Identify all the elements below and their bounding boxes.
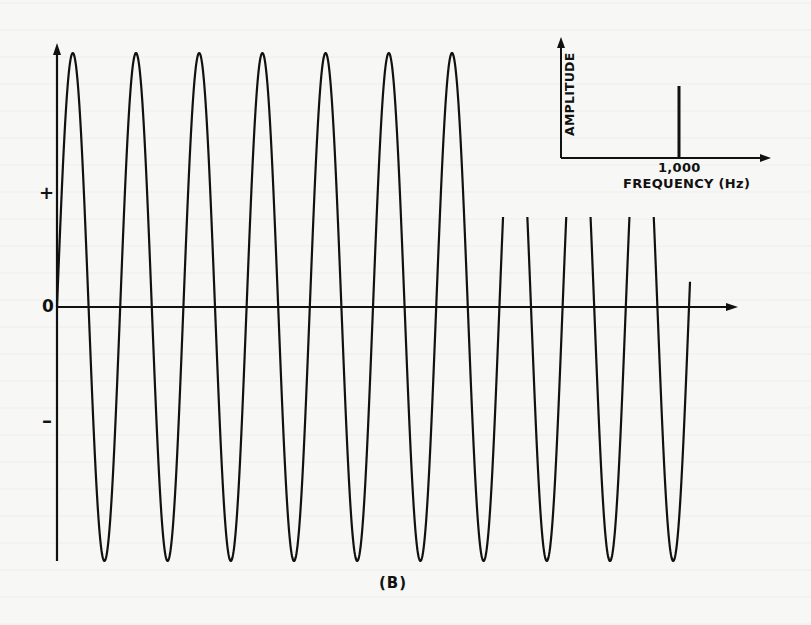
main-x-axis (57, 303, 738, 311)
y-label-positive: + (39, 184, 54, 202)
sine-waveform (57, 53, 690, 561)
inset-x-axis-label: FREQUENCY (Hz) (623, 177, 750, 190)
x-axis-arrow-icon (726, 303, 738, 311)
figure-caption: (B) (379, 576, 407, 591)
inset-y-axis-label: AMPLITUDE (564, 44, 577, 144)
y-label-zero: 0 (42, 298, 54, 315)
inset-spectrum-plot (557, 37, 771, 162)
y-label-negative: – (42, 410, 52, 430)
inset-x-arrow-icon (760, 154, 771, 162)
inset-x-tick-label: 1,000 (658, 161, 701, 174)
figure-canvas (0, 0, 811, 625)
y-axis-arrow-icon (53, 43, 61, 55)
